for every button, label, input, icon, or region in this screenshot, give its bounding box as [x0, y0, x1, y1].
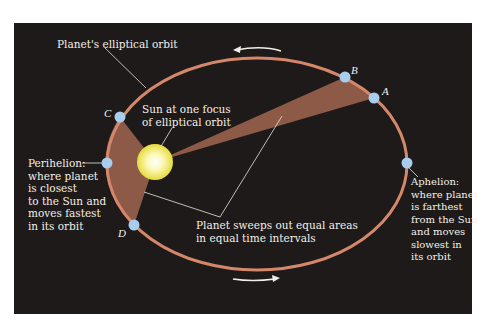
point-c-icon [115, 112, 126, 123]
point-a-icon [369, 93, 380, 104]
aphelion-label: Aphelion: where planet is farthest from … [411, 176, 478, 264]
perihelion-label: Perihelion: where planet is closest to t… [28, 157, 106, 232]
point-d-label: D [118, 227, 126, 239]
top-direction-arrow-icon [236, 48, 281, 51]
aphelion-point-icon [402, 158, 413, 169]
point-b-label: B [351, 64, 358, 76]
orbit-leader-line [105, 48, 146, 88]
point-b-icon [340, 72, 351, 83]
orbit-label: Planet's elliptical orbit [57, 38, 178, 51]
sun-icon [137, 144, 173, 180]
point-a-label: A [382, 85, 389, 97]
bottom-direction-arrow-icon [233, 279, 275, 281]
equal-areas-label: Planet sweeps out equal areas in equal t… [196, 219, 358, 244]
sun-label: Sun at one focus of elliptical orbit [142, 103, 231, 128]
point-c-label: C [104, 107, 111, 119]
bottom-arrowhead-icon [272, 275, 280, 282]
point-d-icon [129, 220, 140, 231]
sun-leader-line [160, 128, 172, 148]
top-arrowhead-icon [233, 46, 241, 53]
